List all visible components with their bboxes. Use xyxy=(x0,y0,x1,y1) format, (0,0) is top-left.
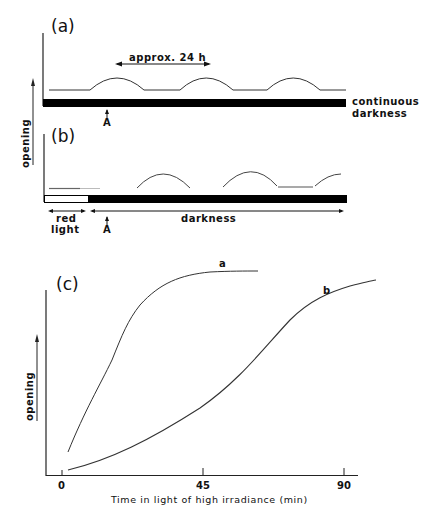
darkness-label-a: darkness xyxy=(352,108,407,119)
period-arrow-left-head xyxy=(115,62,122,67)
panel-c-tag: (c) xyxy=(56,274,79,294)
panel-a-rhythm-curve xyxy=(49,78,346,90)
continuous-label: continuous xyxy=(352,96,419,107)
tick-label-0: 0 xyxy=(58,480,65,491)
panel-b-marker-label: A xyxy=(103,224,111,235)
panel-a-darkness-bar xyxy=(43,99,346,107)
panel-b-peak-1 xyxy=(137,174,190,188)
darkness-label-b: darkness xyxy=(181,213,236,224)
c-opening-label: opening xyxy=(24,372,35,421)
tick-label-45: 45 xyxy=(196,480,210,491)
panel-b-peak-3 xyxy=(315,174,341,186)
panel-a-tag: (a) xyxy=(51,16,75,36)
red-light-bar xyxy=(45,196,89,203)
ab-opening-label: opening xyxy=(20,119,31,168)
panel-b-tag: (b) xyxy=(51,126,75,146)
curve-a-label: a xyxy=(219,258,226,269)
panel-b-darkness-bar xyxy=(88,195,347,203)
tick-label-90: 90 xyxy=(337,480,351,491)
curve-a xyxy=(68,271,258,452)
panel-b-graphics xyxy=(44,134,347,225)
curve-b xyxy=(68,280,376,470)
curve-b-label: b xyxy=(323,285,331,296)
period-label: approx. 24 h xyxy=(129,52,206,63)
ab-opening-arrow xyxy=(31,78,35,165)
light-label: light xyxy=(51,224,79,235)
panel-b-peak-2 xyxy=(223,172,277,187)
panel-c-graphics xyxy=(35,271,376,476)
x-axis-label: Time in light of high irradiance (min) xyxy=(111,494,308,505)
panel-a-graphics xyxy=(43,33,346,118)
panel-a-marker-label: A xyxy=(103,117,111,128)
figure-canvas xyxy=(0,0,428,519)
red-label: red xyxy=(56,213,76,224)
